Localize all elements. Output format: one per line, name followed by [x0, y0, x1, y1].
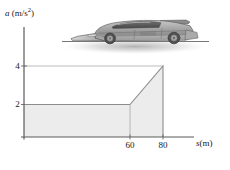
- y-axis-unit-post: ): [31, 8, 34, 18]
- y-axis-unit-pre: (m/s: [10, 8, 28, 18]
- area-under-curve: [24, 66, 163, 137]
- car-front-wheel: [105, 33, 116, 44]
- x-axis-label: s(m): [196, 139, 213, 148]
- x-tick-label-80: 80: [154, 141, 172, 150]
- sports-car-illustration: [62, 20, 209, 54]
- car-tail: [185, 30, 198, 40]
- physics-figure: a (m/s2) s(m) 4 2 60 80: [0, 0, 230, 170]
- y-axis-label: a (m/s2): [5, 9, 34, 18]
- y-tick-label-2: 2: [13, 100, 22, 109]
- car-rear-wheel: [168, 32, 180, 44]
- x-axis-unit: (m): [200, 138, 213, 148]
- y-tick-label-4: 4: [13, 62, 22, 71]
- x-tick-label-60: 60: [121, 141, 139, 150]
